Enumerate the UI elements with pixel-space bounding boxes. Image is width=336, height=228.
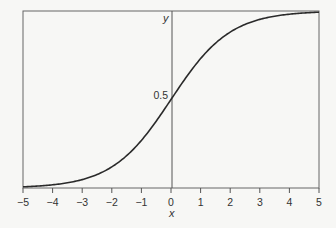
- x-tick-label: 4: [286, 196, 292, 208]
- sigmoid-chart: −5−4−3−2−1012345 0.5 x y: [0, 0, 336, 228]
- sigmoid-curve: [23, 12, 319, 187]
- x-tick-label: 1: [198, 196, 204, 208]
- x-tick-label: −4: [47, 196, 59, 208]
- x-tick-label: −3: [76, 196, 88, 208]
- y-tick-label: 0.5: [153, 89, 168, 101]
- x-axis-label: x: [168, 207, 175, 219]
- x-tick-label: −1: [135, 196, 147, 208]
- x-tick-label: 2: [227, 196, 233, 208]
- x-tick-label: −2: [106, 196, 118, 208]
- x-tick-label: 3: [257, 196, 263, 208]
- y-axis-ticks: 0.5: [153, 89, 168, 101]
- y-axis-label: y: [162, 12, 170, 24]
- x-tick-label: −5: [17, 196, 29, 208]
- x-axis-ticks: −5−4−3−2−1012345: [17, 188, 322, 208]
- x-tick-label: 5: [316, 196, 322, 208]
